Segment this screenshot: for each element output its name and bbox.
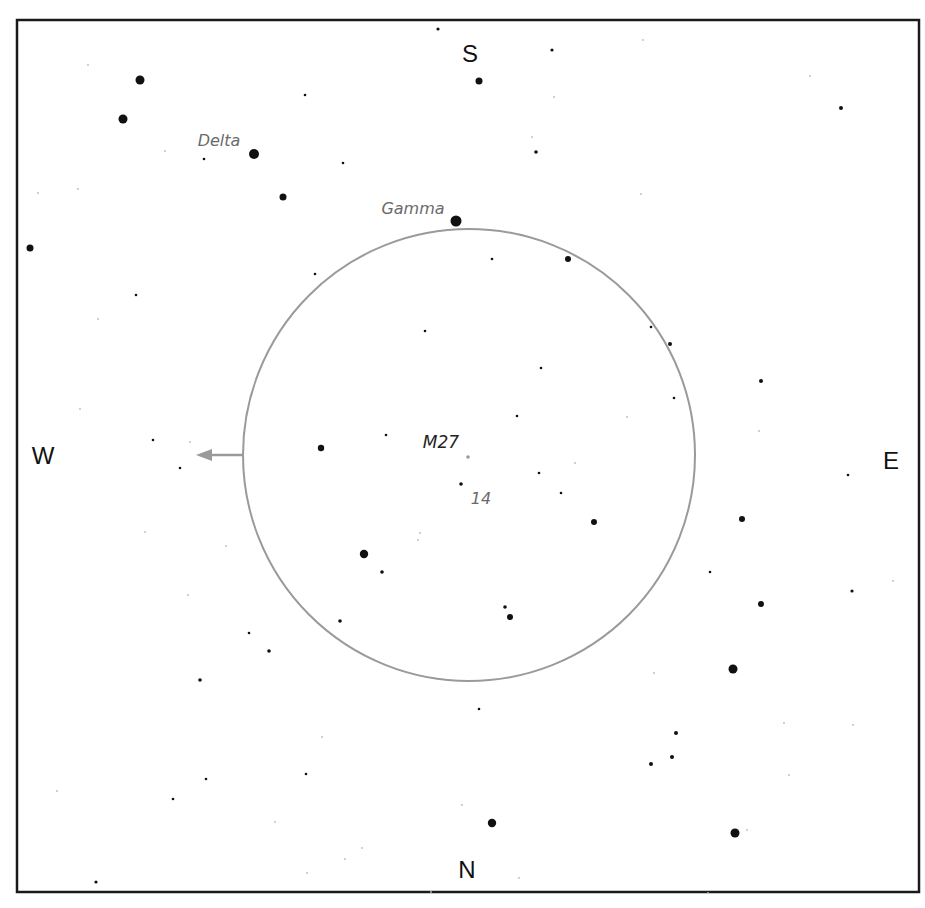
star [305,773,308,776]
star [668,342,672,346]
object-label-m27: M27 [423,432,459,452]
faint-star [56,790,58,792]
star [758,601,764,607]
star [27,245,34,252]
star [670,755,674,759]
faint-star [553,96,555,98]
faint-star [344,858,346,860]
faint-star [574,462,576,464]
star [538,472,541,475]
faint-star [783,722,785,724]
star-label-gamma: Gamma [381,199,444,218]
star [739,516,745,522]
faint-star [892,580,894,582]
star [591,519,597,525]
faint-star [37,192,39,194]
faint-star [518,877,520,879]
magnitude-label-14: 14 [471,489,491,508]
star [304,94,307,97]
faint-star [746,829,748,831]
drift-arrow [196,449,244,461]
faint-star [758,430,760,432]
star [649,762,653,766]
star [491,258,494,261]
compass-west-label: W [32,442,55,469]
star [476,78,483,85]
faint-star [788,774,790,776]
star [560,492,563,495]
faint-star [79,408,81,410]
faint-star [77,188,79,190]
m27-target-marker [466,455,470,459]
star [136,76,145,85]
star [436,27,439,30]
star [152,439,155,442]
faint-star [626,416,628,418]
faint-star [461,804,463,806]
star [729,665,738,674]
star-label-delta: Delta [198,131,241,150]
star [249,149,259,159]
faint-star [164,150,166,152]
star [550,48,553,51]
faint-star [97,318,99,320]
star [759,379,763,383]
star [565,256,571,262]
star [516,415,519,418]
faint-star [809,75,811,77]
star [731,829,740,838]
faint-star [852,724,854,726]
star [205,778,208,781]
star [314,273,317,276]
star [534,150,538,154]
star [507,614,513,620]
star [488,819,496,827]
faint-star [187,594,189,596]
arrow-left-icon [196,449,212,461]
star [172,798,175,801]
star [179,467,182,470]
faint-star [274,821,276,823]
faint-star [321,736,323,738]
faint-star [642,39,644,41]
star [318,445,324,451]
faint-star [417,539,419,541]
star [674,731,678,735]
star [459,482,463,486]
star [342,162,345,165]
star [451,216,462,227]
star [839,106,843,110]
compass-south-label: S [462,40,478,67]
star [478,708,481,711]
field-of-view-circle [243,229,695,681]
star [135,294,138,297]
star [94,880,97,883]
faint-star [189,441,191,443]
star [673,397,676,400]
faint-star [87,64,89,66]
faint-star [419,532,421,534]
stars-layer [27,27,854,883]
faint-star [306,872,308,874]
faint-star [531,136,533,138]
finder-chart: S N E W Delta Gamma M27 14 [0,0,925,908]
star [709,571,712,574]
faint-star [225,545,227,547]
star [385,434,388,437]
faint-star [653,672,655,674]
star [198,678,202,682]
star [280,194,287,201]
star [338,619,342,623]
star [540,367,543,370]
compass-north-label: N [458,856,475,883]
star [847,474,850,477]
star [850,589,853,592]
compass-east-label: E [883,447,899,474]
star [119,115,128,124]
faint-star [430,891,432,893]
star [503,605,507,609]
star [248,632,251,635]
faint-star [144,531,146,533]
faint-star [707,892,709,894]
star [360,550,368,558]
